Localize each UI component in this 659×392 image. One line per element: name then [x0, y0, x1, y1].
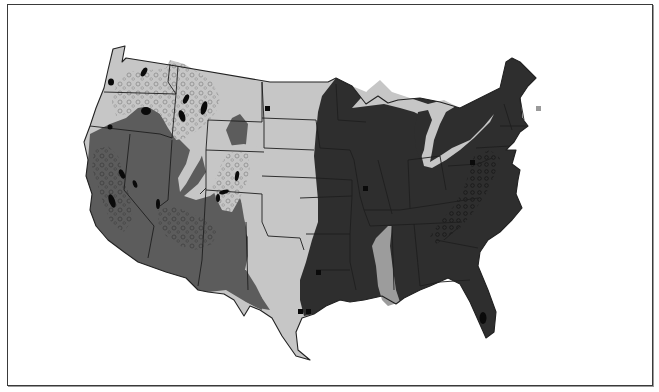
- spot-marker: [156, 199, 160, 209]
- spot-marker: [316, 270, 321, 275]
- zone-light-new-england-patch: [536, 106, 541, 111]
- spot-marker: [470, 160, 475, 165]
- spot-marker: [216, 194, 220, 202]
- spot-marker: [480, 312, 487, 324]
- spot-marker: [108, 79, 114, 86]
- spot-marker: [298, 309, 303, 314]
- spot-marker: [108, 125, 113, 130]
- us-zone-map: [0, 0, 659, 392]
- zone-dark-east: [300, 58, 536, 338]
- spot-marker: [265, 106, 270, 111]
- spot-marker: [306, 309, 311, 314]
- spot-marker: [363, 186, 368, 191]
- spot-marker: [141, 107, 151, 115]
